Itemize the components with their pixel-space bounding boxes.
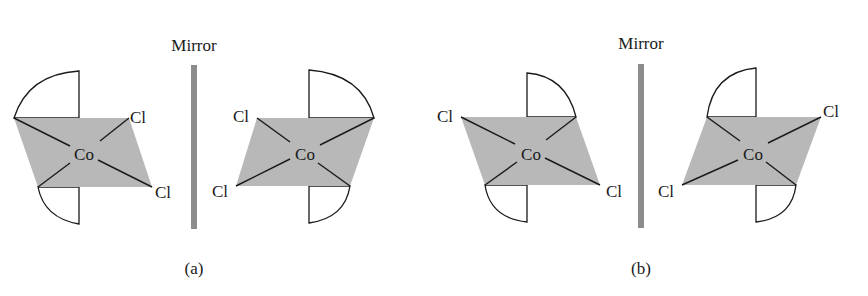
panel-b: Mirror Co Cl Cl Co Cl Cl xyxy=(437,34,839,278)
mirror-label-b: Mirror xyxy=(618,34,664,53)
atom-co: Co xyxy=(74,145,94,164)
molecule-b-right: Co Cl Cl xyxy=(658,68,839,222)
panel-label-a: (a) xyxy=(185,259,204,278)
molecule-a-left: Co Cl Cl xyxy=(14,71,171,224)
chelate-ring-upper xyxy=(707,68,756,117)
atom-cl: Cl xyxy=(212,182,228,201)
mirror-label-a: Mirror xyxy=(171,36,217,55)
molecule-b-left: Co Cl Cl xyxy=(437,73,622,222)
atom-cl: Cl xyxy=(606,182,622,201)
atom-co: Co xyxy=(521,145,541,164)
chelate-ring-lower xyxy=(485,185,527,222)
atom-cl: Cl xyxy=(437,107,453,126)
chelate-ring-upper xyxy=(309,70,374,118)
atom-co: Co xyxy=(743,145,763,164)
atom-cl: Cl xyxy=(130,108,146,127)
mirror-plane-b xyxy=(638,64,644,228)
atom-cl: Cl xyxy=(823,102,839,121)
figure-canvas: Mirror Co Cl Cl Co Cl Cl xyxy=(0,0,868,296)
mirror-image-diagram: Mirror Co Cl Cl Co Cl Cl xyxy=(0,0,868,296)
chelate-ring-lower xyxy=(309,186,350,223)
mirror-plane-a xyxy=(191,65,197,229)
chelate-ring-upper xyxy=(14,71,79,118)
panel-label-b: (b) xyxy=(631,259,651,278)
chelate-ring-upper xyxy=(527,73,576,117)
chelate-ring-lower xyxy=(38,187,79,224)
atom-cl: Cl xyxy=(155,183,171,202)
atom-co: Co xyxy=(295,145,315,164)
atom-cl: Cl xyxy=(658,182,674,201)
panel-a: Mirror Co Cl Cl Co Cl Cl xyxy=(14,36,374,278)
molecule-a-right: Co Cl Cl xyxy=(212,70,374,223)
atom-cl: Cl xyxy=(233,107,249,126)
chelate-ring-lower xyxy=(756,185,796,222)
